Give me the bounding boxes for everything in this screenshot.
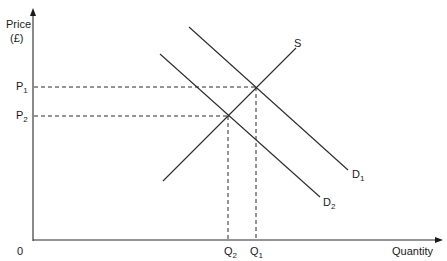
x-axis-label-quantity: Quantity <box>392 245 433 257</box>
d1-label-sub: 1 <box>360 174 365 183</box>
demand-curve-d2 <box>160 54 320 197</box>
supply-label: S <box>294 37 301 49</box>
d2-label-sub: 2 <box>331 202 336 211</box>
d2-label: D2 <box>323 196 336 211</box>
q1-label-sub: 1 <box>259 251 264 260</box>
y-axis-arrow-icon <box>30 8 36 16</box>
p1-label: P1 <box>16 80 28 95</box>
q2-label: Q2 <box>224 245 238 260</box>
d1-label: D1 <box>352 168 365 183</box>
p2-label-main: P <box>16 109 23 121</box>
d2-label-main: D <box>323 196 331 208</box>
origin-label: 0 <box>17 245 23 257</box>
q2-label-sub: 2 <box>233 251 238 260</box>
y-axis-label-currency: (£) <box>10 32 23 44</box>
diagram-svg: Price (£) Quantity 0 S D1 D2 P1 P2 Q2 Q1 <box>0 0 447 261</box>
p1-label-sub: 1 <box>23 86 28 95</box>
supply-curve <box>163 48 296 181</box>
supply-demand-diagram: Price (£) Quantity 0 S D1 D2 P1 P2 Q2 Q1 <box>0 0 447 261</box>
y-axis-label-price: Price <box>6 18 31 30</box>
p2-label-sub: 2 <box>23 115 28 124</box>
demand-curve-d1 <box>189 27 348 170</box>
p2-label: P2 <box>16 109 28 124</box>
q1-label: Q1 <box>250 245 264 260</box>
d1-label-main: D <box>352 168 360 180</box>
x-axis-arrow-icon <box>435 237 443 243</box>
p1-label-main: P <box>16 80 23 92</box>
